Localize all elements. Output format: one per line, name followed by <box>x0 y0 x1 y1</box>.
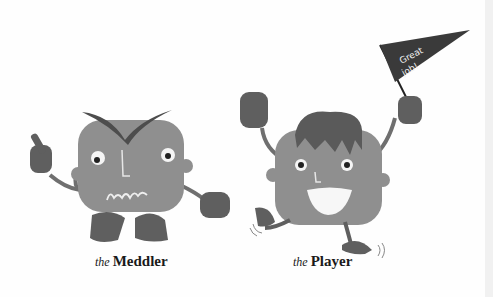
pennant-flag-icon: Great job! <box>380 30 470 105</box>
player-caption: thePlayer <box>293 253 352 270</box>
illustration: Great job! <box>0 0 493 297</box>
caption-name: Player <box>311 253 353 269</box>
caption-name: Meddler <box>113 253 168 269</box>
pointing-hand-icon <box>30 132 52 173</box>
meddler-figure <box>30 110 230 242</box>
waving-hand-icon <box>240 92 268 128</box>
meddler-caption: theMeddler <box>95 253 168 270</box>
right-hand-icon <box>200 192 230 218</box>
caption-article: the <box>293 255 308 269</box>
caption-article: the <box>95 255 110 269</box>
player-figure: Great job! <box>240 30 470 258</box>
